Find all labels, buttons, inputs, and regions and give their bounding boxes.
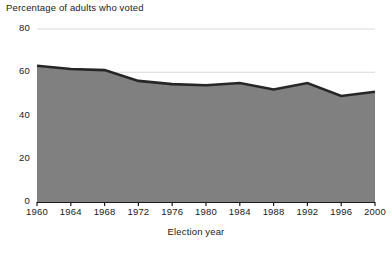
x-axis-tick-label: 1980 [190,206,222,217]
x-axis-tick-label: 1984 [224,206,256,217]
chart-figure: Percentage of adults who voted 020406080… [0,0,392,254]
x-axis-title: Election year [0,226,392,237]
x-axis-tick-label: 2000 [359,206,391,217]
x-axis-tick-label: 1988 [258,206,290,217]
x-axis-tick-label: 1972 [122,206,154,217]
x-axis-tick-label: 1960 [21,206,53,217]
x-axis-tick-label: 1976 [156,206,188,217]
y-axis-tick-label: 20 [4,152,30,163]
x-axis-tick-label: 1992 [291,206,323,217]
y-axis-tick-label: 60 [4,65,30,76]
x-axis-tick-label: 1964 [55,206,87,217]
y-axis-tick-label: 80 [4,22,30,33]
x-axis-tick-label: 1968 [89,206,121,217]
x-axis-tick-label: 1996 [325,206,357,217]
y-axis-tick-label: 0 [4,195,30,206]
y-axis-tick-label: 40 [4,109,30,120]
